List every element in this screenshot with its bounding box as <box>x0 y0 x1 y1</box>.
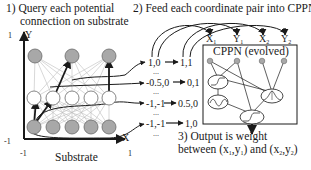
cppn-function-nodes <box>208 75 283 124</box>
cppn-input-arcs <box>152 23 285 57</box>
sigmoid-node-icon <box>208 75 228 89</box>
cppn-input-nodes <box>207 58 287 64</box>
pair-arrows <box>164 62 185 123</box>
cppn-input-arrows <box>210 28 285 35</box>
sine-node-icon <box>208 95 228 109</box>
gaussian-node-icon <box>261 89 283 103</box>
cppn-substrate-diagram <box>0 0 311 170</box>
output-node-icon <box>240 110 264 124</box>
